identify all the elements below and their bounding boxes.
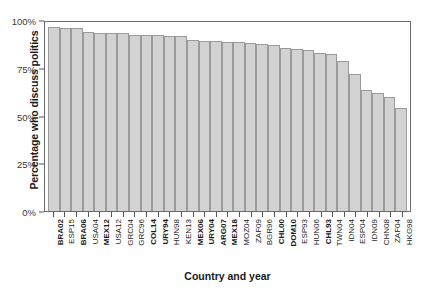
- x-tick-mark: [274, 212, 275, 217]
- bar: [349, 74, 361, 211]
- x-axis-title: Country and year: [44, 270, 411, 282]
- x-label-cell: DOM10: [280, 219, 292, 267]
- x-tick-cell: [59, 212, 71, 218]
- bar: [233, 42, 245, 211]
- x-tick-mark: [344, 212, 345, 217]
- bar: [152, 35, 164, 211]
- bar: [268, 45, 280, 211]
- x-tick-cell: [385, 212, 397, 218]
- x-label-cell: MEX12: [94, 219, 106, 267]
- x-tick-cell: [291, 212, 303, 218]
- x-tick-cell: [105, 212, 117, 218]
- x-label-cell: MEX18: [222, 219, 234, 267]
- x-tick-cell: [280, 212, 292, 218]
- x-tick-cell: [128, 212, 140, 218]
- bar: [141, 35, 153, 211]
- x-label-cell: KEN13: [175, 219, 187, 267]
- bar: [175, 36, 187, 211]
- bar: [245, 43, 257, 211]
- x-label-cell: ZAF09: [245, 219, 257, 267]
- x-tick-cell: [326, 212, 338, 218]
- x-label-cell: COL14: [140, 219, 152, 267]
- x-tick-cell: [163, 212, 175, 218]
- x-label-cell: ESP04: [350, 219, 362, 267]
- x-tick-cell: [245, 212, 257, 218]
- x-tick-cell: [222, 212, 234, 218]
- x-tick-mark: [262, 212, 263, 217]
- x-label-cell: CHN08: [373, 219, 385, 267]
- x-label-cell: HUN06: [303, 219, 315, 267]
- x-label-cell: HUN98: [163, 219, 175, 267]
- bar: [291, 49, 303, 211]
- x-tick-mark: [111, 212, 112, 217]
- bar: [48, 27, 60, 211]
- x-tick-mark: [169, 212, 170, 217]
- x-label-cell: USA04: [82, 219, 94, 267]
- x-label-cell: GRC04: [117, 219, 129, 267]
- y-axis-ticks: 0%25%50%75%100%: [0, 0, 44, 292]
- x-tick-mark: [158, 212, 159, 217]
- y-tick-label: 75%: [17, 63, 36, 74]
- x-label-cell: BGR96: [257, 219, 269, 267]
- bar: [337, 61, 349, 211]
- x-tick-mark: [88, 212, 89, 217]
- bar: [372, 93, 384, 211]
- bar: [303, 50, 315, 211]
- bar: [256, 44, 268, 211]
- bar: [106, 33, 118, 211]
- x-tick-cell: [47, 212, 59, 218]
- x-label-cell: BRA02: [47, 219, 59, 267]
- x-label-cell: URY94: [152, 219, 164, 267]
- x-tick-mark: [123, 212, 124, 217]
- x-tick-mark: [297, 212, 298, 217]
- x-tick-cell: [210, 212, 222, 218]
- bar: [326, 54, 338, 211]
- bar: [71, 28, 83, 211]
- x-tick-cell: [233, 212, 245, 218]
- x-tick-cell: [152, 212, 164, 218]
- x-tick-cell: [315, 212, 327, 218]
- x-tick-mark: [309, 212, 310, 217]
- x-tick-mark: [53, 212, 54, 217]
- x-label-cell: IDN09: [361, 219, 373, 267]
- x-tick-mark: [332, 212, 333, 217]
- bar: [164, 36, 176, 211]
- bar: [129, 35, 141, 211]
- bar: [60, 28, 72, 211]
- bar: [187, 40, 199, 211]
- bar: [199, 41, 211, 211]
- x-label-cell: ESP15: [59, 219, 71, 267]
- x-tick-cell: [350, 212, 362, 218]
- bar: [280, 48, 292, 211]
- x-label-cell: CHL93: [315, 219, 327, 267]
- x-tick-cell: [268, 212, 280, 218]
- x-tick-mark: [286, 212, 287, 217]
- x-label-cell: BRA06: [70, 219, 82, 267]
- x-tick-mark: [390, 212, 391, 217]
- x-label-cell: IDN04: [338, 219, 350, 267]
- y-tick-label: 25%: [17, 159, 36, 170]
- x-tick-cell: [82, 212, 94, 218]
- x-label-cell: USA12: [105, 219, 117, 267]
- x-tick-mark: [193, 212, 194, 217]
- x-tick-mark: [216, 212, 217, 217]
- x-tick-mark: [239, 212, 240, 217]
- bar: [384, 97, 396, 211]
- x-tick-cell: [338, 212, 350, 218]
- x-tick-cell: [373, 212, 385, 218]
- x-label-cell: ARG07: [210, 219, 222, 267]
- x-label-cell: HKG98: [396, 219, 408, 267]
- bar-series: [45, 22, 410, 211]
- x-tick-cell: [94, 212, 106, 218]
- x-tick-mark: [204, 212, 205, 217]
- bar: [222, 42, 234, 211]
- x-axis-ticks: [44, 212, 411, 218]
- x-tick-label: HKG98: [406, 219, 414, 245]
- x-tick-cell: [175, 212, 187, 218]
- x-tick-cell: [117, 212, 129, 218]
- y-tick-label: 0%: [22, 207, 36, 218]
- x-tick-mark: [134, 212, 135, 217]
- plot-area: [44, 21, 411, 212]
- bar-chart-figure: Percentage who discuss politics 0%25%50%…: [0, 0, 424, 292]
- x-tick-mark: [227, 212, 228, 217]
